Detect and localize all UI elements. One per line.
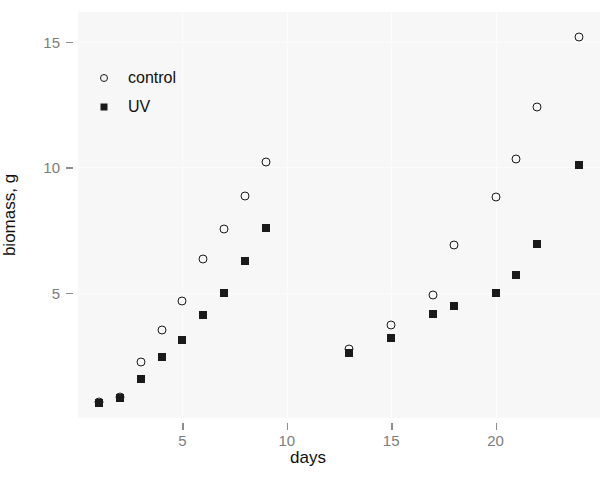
data-point-uv	[116, 394, 124, 402]
data-point-uv	[533, 240, 541, 248]
x-tick-label: 10	[278, 432, 295, 449]
data-point-uv	[387, 334, 395, 342]
gridline-vertical	[496, 12, 497, 418]
filled-square-icon	[101, 104, 108, 111]
data-point-control	[449, 241, 458, 250]
x-tick-label: 5	[178, 432, 186, 449]
data-point-control	[533, 103, 542, 112]
y-tick-label: 5	[16, 284, 60, 301]
legend-label-control: control	[128, 69, 176, 87]
data-point-uv	[429, 310, 437, 318]
data-point-uv	[345, 349, 353, 357]
data-point-control	[261, 158, 270, 167]
data-point-control	[241, 192, 250, 201]
data-point-uv	[575, 161, 583, 169]
data-point-control	[157, 326, 166, 335]
x-tick-label: 20	[487, 432, 504, 449]
gridline-vertical	[182, 12, 183, 418]
x-tick-mark	[496, 423, 497, 430]
data-point-control	[136, 357, 145, 366]
open-circle-icon	[100, 74, 108, 82]
data-point-control	[575, 33, 584, 42]
data-point-uv	[137, 375, 145, 383]
data-point-control	[220, 224, 229, 233]
y-tick-label: 10	[16, 159, 60, 176]
gridline-vertical	[391, 12, 392, 418]
gridline-vertical	[287, 12, 288, 418]
x-tick-label: 15	[383, 432, 400, 449]
legend-label-uv: UV	[128, 98, 150, 116]
y-axis-title: biomass, g	[0, 174, 20, 256]
y-tick-mark	[66, 42, 73, 43]
y-tick-mark	[66, 293, 73, 294]
data-point-uv	[512, 271, 520, 279]
data-point-uv	[199, 311, 207, 319]
data-point-control	[387, 321, 396, 330]
data-point-control	[178, 297, 187, 306]
x-tick-mark	[391, 423, 392, 430]
gridline-horizontal	[78, 42, 600, 43]
data-point-uv	[158, 353, 166, 361]
data-point-control	[512, 154, 521, 163]
y-tick-mark	[66, 167, 73, 168]
x-tick-mark	[182, 423, 183, 430]
data-point-uv	[492, 289, 500, 297]
x-axis-title: days	[290, 448, 326, 468]
data-point-uv	[220, 289, 228, 297]
data-point-control	[491, 193, 500, 202]
data-point-uv	[241, 257, 249, 265]
data-point-uv	[178, 336, 186, 344]
data-point-uv	[262, 224, 270, 232]
gridline-horizontal	[78, 167, 600, 168]
scatter-plot-figure: 51015 5101520 days biomass, g control UV	[0, 0, 616, 484]
data-point-uv	[95, 399, 103, 407]
data-point-uv	[450, 302, 458, 310]
data-point-control	[199, 254, 208, 263]
x-tick-mark	[287, 423, 288, 430]
gridline-horizontal	[78, 293, 600, 294]
y-tick-label: 15	[16, 34, 60, 51]
data-point-control	[428, 291, 437, 300]
